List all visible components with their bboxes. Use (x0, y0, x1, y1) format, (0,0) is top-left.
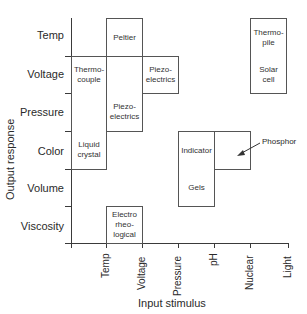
cell-thermopile-label: Thermo-pile (253, 28, 283, 48)
line: cell (262, 75, 274, 84)
row-label-viscosity: Viscosity (21, 220, 64, 232)
cell-thermocouple-label: Thermo-couple (74, 65, 104, 85)
x-tick (250, 243, 251, 248)
line: crystal (77, 150, 100, 159)
cell-solar-cell-label: Solarcell (259, 65, 278, 85)
cell-indicator: Indicator (178, 131, 215, 170)
cell-peltier-label: Peltier (113, 33, 136, 43)
cell-gels-label: Gels (188, 183, 204, 193)
cell-electrorheological: Electrorheo-logical (106, 206, 143, 244)
x-tick (178, 243, 179, 248)
line: Electro (112, 210, 137, 219)
x-tick (71, 243, 72, 248)
row-label-color: Color (38, 145, 64, 157)
row-label-volume: Volume (27, 182, 64, 194)
line: Liquid (78, 140, 99, 149)
row-label-pressure: Pressure (20, 106, 64, 118)
line: couple (77, 75, 101, 84)
cell-piezo-pressure-label: Piezo-electrics (110, 102, 139, 122)
line: Solar (259, 65, 278, 74)
cell-electrorheological-label: Electrorheo-logical (112, 210, 137, 240)
line: electrics (146, 75, 175, 84)
x-axis-title: Input stimulus (138, 297, 206, 309)
line: Thermo- (74, 65, 104, 74)
line: electrics (110, 112, 139, 121)
row-label-temp: Temp (37, 29, 64, 41)
col-label-temp: Temp (100, 254, 111, 278)
cell-peltier: Peltier (106, 18, 143, 57)
y-axis-title: Output response (4, 119, 16, 200)
y-tick (65, 206, 71, 207)
x-tick (288, 243, 289, 248)
line: rheo- (115, 220, 134, 229)
cell-solar-cell: Solarcell (250, 56, 287, 94)
cell-piezo-voltage: Piezo-electrics (143, 56, 179, 94)
col-label-light: Light (282, 256, 293, 278)
col-label-ph: pH (208, 253, 219, 266)
phosphor-arrow-icon (234, 140, 264, 160)
line: logical (113, 230, 136, 239)
line: Piezo- (149, 65, 172, 74)
cell-liquid-crystal-label: Liquidcrystal (77, 140, 100, 160)
cell-piezo-voltage-label: Piezo-electrics (146, 65, 175, 85)
x-tick (214, 243, 215, 248)
row-label-voltage: Voltage (27, 68, 64, 80)
cell-piezo-pressure: Piezo-electrics (107, 93, 143, 132)
cell-pressure-empty (71, 93, 107, 132)
cell-liquid-crystal: Liquidcrystal (71, 131, 107, 170)
cell-indicator-label: Indicator (181, 146, 212, 156)
col-label-nuclear: Nuclear (244, 256, 255, 290)
cell-gels: Gels (178, 169, 215, 207)
cell-voltage-empty (107, 56, 143, 94)
line: Thermo- (253, 28, 283, 37)
x-axis-line (71, 243, 289, 244)
col-label-pressure: Pressure (172, 256, 183, 296)
phosphor-label: Phosphor (262, 137, 296, 146)
col-label-voltage: Voltage (136, 257, 147, 290)
cell-thermopile: Thermo-pile (250, 18, 287, 57)
cell-thermocouple: Thermo-couple (71, 56, 107, 94)
line: Piezo- (113, 102, 136, 111)
line: pile (262, 38, 274, 47)
